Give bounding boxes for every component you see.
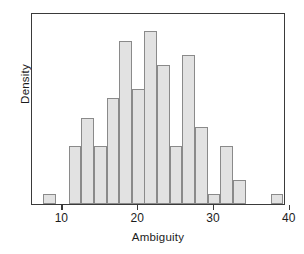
x-tick-mark xyxy=(137,205,138,210)
histogram-bar xyxy=(132,89,145,204)
x-tick-label: 30 xyxy=(193,211,233,225)
histogram-bar xyxy=(69,146,82,204)
histogram-figure: Density 10203040 Ambiguity xyxy=(0,0,304,254)
x-axis-ticks: 10203040 xyxy=(0,205,304,231)
histogram-bar xyxy=(182,55,195,204)
x-tick-label: 40 xyxy=(269,211,304,225)
histogram-bar xyxy=(208,194,221,204)
histogram-bar xyxy=(119,41,132,204)
histogram-bar xyxy=(195,127,208,204)
x-tick-mark xyxy=(213,205,214,210)
histogram-bars xyxy=(32,14,284,204)
histogram-bar xyxy=(144,31,157,204)
histogram-bar xyxy=(233,180,246,204)
histogram-bar xyxy=(94,146,107,204)
x-tick-mark xyxy=(289,205,290,210)
plot-area xyxy=(31,13,285,205)
histogram-bar xyxy=(170,146,183,204)
histogram-bar xyxy=(43,194,56,204)
x-tick-mark xyxy=(61,205,62,210)
y-axis-label: Density xyxy=(19,19,31,149)
histogram-bar xyxy=(157,65,170,204)
histogram-bar xyxy=(220,146,233,204)
histogram-bar xyxy=(81,118,94,204)
x-tick-label: 20 xyxy=(117,211,157,225)
histogram-bar xyxy=(271,194,284,204)
x-axis-label: Ambiguity xyxy=(31,231,285,243)
histogram-bar xyxy=(107,98,120,204)
x-tick-label: 10 xyxy=(41,211,81,225)
